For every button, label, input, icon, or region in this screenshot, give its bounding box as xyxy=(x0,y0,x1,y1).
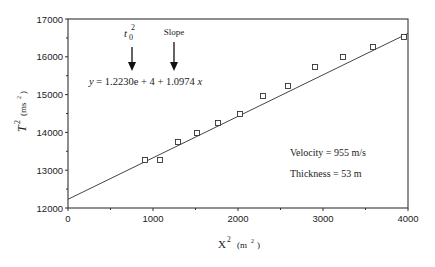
data-point-marker xyxy=(195,131,200,136)
slope-arrow-icon xyxy=(170,62,178,71)
x-tick-label: 3000 xyxy=(312,213,333,224)
slope-label: Slope xyxy=(164,27,185,37)
svg-text:): ) xyxy=(257,240,260,250)
data-point-marker xyxy=(238,111,243,116)
t0-annotation: t 0 2 xyxy=(124,23,136,71)
x-tick-label: 4000 xyxy=(397,213,418,224)
svg-text:T: T xyxy=(15,124,29,132)
data-point-marker xyxy=(143,157,148,162)
y-axis-label: T 2 (ms 2 ) xyxy=(13,91,29,132)
y-tick-label: 17000 xyxy=(37,14,63,25)
x-axis-label: X 2 (m 2 ) xyxy=(218,235,260,250)
velocity-annotation: Velocity = 955 m/s xyxy=(290,147,366,158)
x-tick-label: 1000 xyxy=(142,213,163,224)
svg-text:(ms: (ms xyxy=(18,102,28,116)
y-tick-label: 12000 xyxy=(37,203,63,214)
thickness-annotation: Thickness = 53 m xyxy=(290,168,362,179)
y-tick-label: 13000 xyxy=(37,165,63,176)
x-tick-label: 2000 xyxy=(227,213,248,224)
svg-text:): ) xyxy=(18,91,28,94)
slope-annotation: Slope xyxy=(164,27,185,71)
svg-text:(m: (m xyxy=(237,240,247,250)
equation-text: = 1.2230e + 4 + 1.0974 xyxy=(94,76,196,87)
chart: 1200013000140001500016000170000100020003… xyxy=(0,0,435,267)
svg-text:X: X xyxy=(218,238,226,250)
svg-text:2: 2 xyxy=(227,235,231,244)
t0-subscript: 0 xyxy=(129,33,133,42)
data-point-marker xyxy=(402,34,407,39)
t0-superscript: 2 xyxy=(131,23,135,32)
svg-text:2: 2 xyxy=(251,238,254,244)
svg-text:2: 2 xyxy=(13,120,22,124)
y-tick-label: 16000 xyxy=(37,51,63,62)
x-tick-label: 0 xyxy=(65,213,70,224)
data-point-marker xyxy=(285,83,290,88)
y-tick-label: 15000 xyxy=(37,89,63,100)
fit-equation: y = 1.2230e + 4 + 1.0974 x xyxy=(88,76,202,87)
y-tick-label: 14000 xyxy=(37,127,63,138)
data-point-marker xyxy=(157,157,162,162)
data-point-marker xyxy=(313,65,318,70)
data-point-marker xyxy=(260,93,265,98)
t0-arrow-icon xyxy=(128,62,136,71)
data-point-marker xyxy=(175,140,180,145)
data-point-marker xyxy=(216,120,221,125)
svg-text:2: 2 xyxy=(16,96,22,99)
t0-label: t xyxy=(124,27,128,39)
data-point-marker xyxy=(340,54,345,59)
axis-ticks: 1200013000140001500016000170000100020003… xyxy=(37,14,419,225)
data-point-marker xyxy=(370,45,375,50)
